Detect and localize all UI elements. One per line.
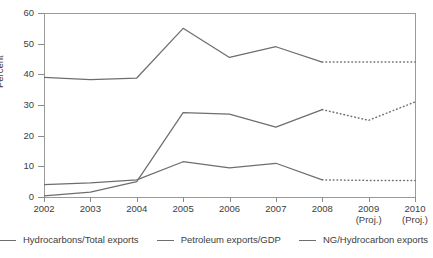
x-axis-tick (230, 197, 231, 202)
y-axis-tick-label: 20 (0, 131, 34, 141)
y-axis-tick-label: 0 (0, 192, 34, 202)
legend-line-icon (299, 240, 316, 241)
x-axis-tick (183, 197, 184, 202)
legend-line-icon (0, 240, 16, 241)
x-axis-tick (322, 197, 323, 202)
y-axis-tick-label: 30 (0, 100, 34, 110)
series-line-3-projection (322, 102, 415, 120)
x-axis-tick (90, 197, 91, 202)
series-lines (44, 13, 416, 197)
series-line-2-projection (322, 180, 415, 181)
x-axis-tick (369, 197, 370, 202)
y-axis-tick-label: 10 (0, 161, 34, 171)
x-tick-year: 2009 (358, 203, 379, 214)
x-axis-tick (137, 197, 138, 202)
x-tick-year: 2008 (312, 203, 333, 214)
plot-area (44, 13, 416, 197)
y-axis-tick-label: 40 (0, 69, 34, 79)
x-axis-tick (276, 197, 277, 202)
x-tick-projection-note: (Proj.) (387, 214, 433, 225)
y-axis-tick-label: 60 (0, 8, 34, 18)
legend-label: NG/Hydrocarbon exports (323, 235, 428, 245)
series-line-1-actual (44, 28, 322, 79)
legend-label: Hydrocarbons/Total exports (23, 235, 139, 245)
x-tick-year: 2010 (404, 203, 425, 214)
legend-label: Petroleum exports/GDP (181, 235, 281, 245)
x-tick-year: 2004 (126, 203, 147, 214)
x-tick-year: 2005 (173, 203, 194, 214)
x-tick-year: 2003 (80, 203, 101, 214)
x-tick-year: 2007 (265, 203, 286, 214)
chart-legend: Hydrocarbons/Total exportsPetroleum expo… (0, 232, 427, 248)
x-axis-tick (44, 197, 45, 202)
legend-item-3[interactable]: NG/Hydrocarbon exports (299, 235, 428, 245)
legend-item-1[interactable]: Hydrocarbons/Total exports (0, 235, 139, 245)
clipped-chart-title: ... (0, 0, 427, 4)
x-tick-year: 2006 (219, 203, 240, 214)
y-axis-tick-label: 50 (0, 39, 34, 49)
series-line-2-actual (44, 162, 322, 185)
legend-line-icon (157, 240, 174, 241)
x-axis-tick-label: 2010(Proj.) (387, 203, 433, 225)
x-axis-tick (415, 197, 416, 202)
legend-item-2[interactable]: Petroleum exports/GDP (157, 235, 281, 245)
x-tick-year: 2002 (33, 203, 54, 214)
